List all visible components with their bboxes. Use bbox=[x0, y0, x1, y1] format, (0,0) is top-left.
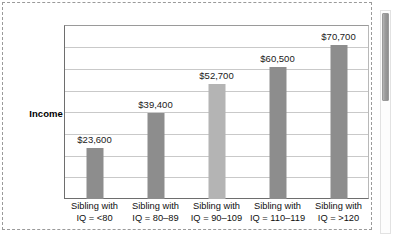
x-axis-label-line2: IQ = 90–109 bbox=[186, 213, 247, 225]
x-axis-label: Sibling with IQ = 90–109 bbox=[186, 201, 247, 224]
x-axis-label-line1: Sibling with bbox=[193, 201, 240, 211]
bar-value-label: $39,400 bbox=[138, 99, 172, 110]
x-axis-label: Sibling with IQ = 80–89 bbox=[125, 201, 186, 224]
x-axis-label-line1: Sibling with bbox=[132, 201, 179, 211]
x-axis-label: Sibling with IQ = >120 bbox=[308, 201, 369, 224]
x-axis-label-line2: IQ = 110–119 bbox=[247, 213, 308, 225]
vertical-scrollbar-track[interactable] bbox=[380, 10, 391, 234]
x-axis-label-line2: IQ = >120 bbox=[308, 213, 369, 225]
bar-group: $70,700 bbox=[308, 25, 369, 199]
y-axis-title: Income bbox=[11, 108, 63, 119]
bar-group: $39,400 bbox=[125, 25, 186, 199]
bar[interactable] bbox=[147, 113, 164, 199]
x-axis-label-line1: Sibling with bbox=[71, 201, 118, 211]
bar-value-label: $23,600 bbox=[77, 134, 111, 145]
x-axis-label-line1: Sibling with bbox=[315, 201, 362, 211]
bar-value-label: $60,500 bbox=[260, 53, 294, 64]
chart-figure-frame: Income $23,600 $39,400 $52,700 $60,500 $… bbox=[2, 2, 372, 230]
bar[interactable] bbox=[86, 148, 103, 199]
bar-value-label: $52,700 bbox=[199, 70, 233, 81]
bar[interactable] bbox=[208, 84, 225, 199]
bar[interactable] bbox=[269, 67, 286, 199]
vertical-scrollbar-thumb[interactable] bbox=[382, 13, 389, 101]
bar-value-label: $70,700 bbox=[321, 31, 355, 42]
chart-bars-layer: $23,600 $39,400 $52,700 $60,500 $70,700 bbox=[64, 25, 369, 199]
bar-group: $52,700 bbox=[186, 25, 247, 199]
x-axis-label-line1: Sibling with bbox=[254, 201, 301, 211]
x-axis-label: Sibling with IQ = <80 bbox=[64, 201, 125, 224]
bar[interactable] bbox=[330, 45, 347, 199]
x-axis-category-labels: Sibling with IQ = <80 Sibling with IQ = … bbox=[64, 201, 369, 229]
x-axis-label-line2: IQ = 80–89 bbox=[125, 213, 186, 225]
x-axis-label: Sibling with IQ = 110–119 bbox=[247, 201, 308, 224]
bar-group: $60,500 bbox=[247, 25, 308, 199]
bar-group: $23,600 bbox=[64, 25, 125, 199]
x-axis-label-line2: IQ = <80 bbox=[64, 213, 125, 225]
